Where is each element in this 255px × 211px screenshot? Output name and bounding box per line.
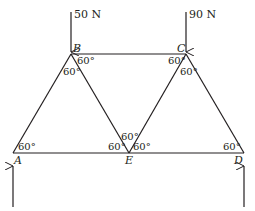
node-label-e: E — [125, 155, 133, 166]
node-label-a: A — [14, 155, 22, 166]
load-label-c: 90 N — [189, 9, 216, 20]
angle-label-a: 60° — [18, 142, 36, 152]
angle-label-e-left: 60° — [108, 142, 126, 152]
angle-label-d: 60° — [223, 142, 241, 152]
truss-diagram — [0, 0, 255, 211]
node-label-d: D — [234, 155, 243, 166]
angle-label-c-inner: 60° — [180, 67, 198, 77]
node-label-b: B — [73, 43, 81, 54]
angle-label-e-right: 60° — [133, 142, 151, 152]
angle-label-b-inner: 60° — [63, 67, 81, 77]
angle-label-b-right: 60° — [77, 56, 95, 66]
angle-label-c-left: 60° — [168, 56, 186, 66]
load-label-b: 50 N — [74, 9, 101, 20]
node-label-c: C — [177, 43, 185, 54]
